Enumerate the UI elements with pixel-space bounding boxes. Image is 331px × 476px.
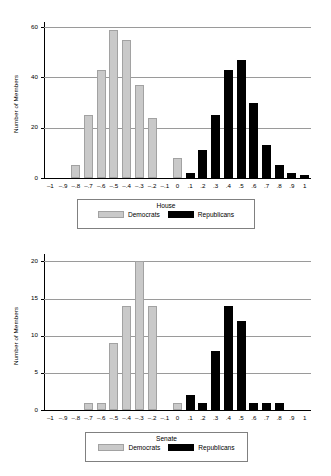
senate-legend: Senate Democrats Republicans [85, 432, 248, 462]
y-tick-mark [41, 299, 44, 300]
bar-republicans [224, 306, 233, 410]
bar-democrats [122, 306, 131, 410]
x-tick-label: 1 [296, 414, 314, 421]
y-axis-title: Number of Members [12, 307, 19, 365]
democrat-swatch-icon [98, 211, 124, 218]
y-tick-label: 15 [16, 294, 38, 301]
y-tick-mark [41, 410, 44, 411]
bar-democrats [135, 85, 144, 178]
y-axis-line [44, 254, 45, 410]
bar-republicans [287, 173, 296, 178]
bar-republicans [198, 403, 207, 410]
bar-democrats [135, 261, 144, 410]
bar-republicans [249, 403, 258, 410]
x-axis-line [44, 178, 311, 179]
bar-republicans [262, 145, 271, 178]
y-tick-label: 60 [16, 23, 38, 30]
y-axis-title: Number of Members [12, 75, 19, 133]
y-tick-mark [41, 336, 44, 337]
y-tick-mark [41, 178, 44, 179]
bar-republicans [186, 395, 195, 410]
y-tick-label: 20 [16, 123, 38, 130]
y-tick-mark [41, 27, 44, 28]
y-tick-mark [41, 261, 44, 262]
x-axis-line [44, 410, 311, 411]
bar-democrats [122, 40, 131, 178]
bar-democrats [71, 165, 80, 178]
democrat-swatch-icon [98, 444, 124, 451]
bar-republicans [249, 103, 258, 178]
bar-democrats [148, 118, 157, 178]
house-legend-item-republicans[interactable]: Republicans [168, 211, 234, 218]
bar-republicans [211, 115, 220, 178]
bar-republicans [300, 175, 309, 178]
y-tick-label: 40 [16, 73, 38, 80]
senate-legend-item-republicans[interactable]: Republicans [168, 444, 234, 451]
bar-republicans [186, 173, 195, 178]
gridline [44, 77, 311, 78]
bar-democrats [109, 30, 118, 178]
histogram-figure: 0204060Number of Members–1–.9–.8–.7–.6–.… [0, 0, 331, 476]
bar-democrats [173, 403, 182, 410]
bar-republicans [211, 351, 220, 410]
house-legend-label-democrats: Democrats [128, 211, 160, 218]
bar-republicans [275, 165, 284, 178]
house-panel: 0204060Number of Members–1–.9–.8–.7–.6–.… [0, 0, 331, 238]
house-legend-title: House [78, 202, 254, 209]
bar-democrats [84, 115, 93, 178]
republican-swatch-icon [168, 211, 194, 218]
y-tick-mark [41, 128, 44, 129]
senate-legend-item-democrats[interactable]: Democrats [98, 444, 160, 451]
bar-republicans [262, 403, 271, 410]
gridline [44, 336, 311, 337]
house-legend-row: Democrats Republicans [78, 211, 254, 218]
y-tick-label: 10 [16, 331, 38, 338]
senate-legend-title: Senate [86, 435, 247, 442]
gridline [44, 373, 311, 374]
y-tick-label: 5 [16, 368, 38, 375]
bar-democrats [97, 403, 106, 410]
senate-legend-row: Democrats Republicans [86, 444, 247, 451]
senate-legend-label-republicans: Republicans [198, 444, 234, 451]
senate-legend-label-democrats: Democrats [128, 444, 160, 451]
y-tick-label: 20 [16, 257, 38, 264]
gridline [44, 27, 311, 28]
y-tick-mark [41, 373, 44, 374]
bar-democrats [97, 70, 106, 178]
bar-republicans [237, 321, 246, 410]
y-tick-mark [41, 77, 44, 78]
gridline [44, 299, 311, 300]
y-tick-label: 0 [16, 406, 38, 413]
bar-republicans [198, 150, 207, 178]
house-legend: House Democrats Republicans [77, 199, 255, 229]
bar-democrats [84, 403, 93, 410]
y-axis-line [44, 22, 45, 178]
bar-republicans [224, 70, 233, 178]
bar-democrats [173, 158, 182, 178]
x-tick-label: 1 [296, 182, 314, 189]
gridline [44, 261, 311, 262]
bar-democrats [109, 343, 118, 410]
bar-republicans [275, 403, 284, 410]
senate-panel: 05101520Number of Members–1–.9–.8–.7–.6–… [0, 238, 331, 476]
republican-swatch-icon [168, 444, 194, 451]
bar-democrats [148, 306, 157, 410]
house-legend-item-democrats[interactable]: Democrats [98, 211, 160, 218]
house-legend-label-republicans: Republicans [198, 211, 234, 218]
bar-republicans [237, 60, 246, 178]
y-tick-label: 0 [16, 174, 38, 181]
